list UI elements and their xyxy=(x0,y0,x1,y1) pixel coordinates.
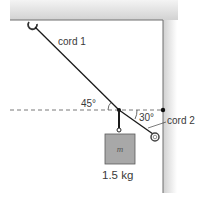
cord-tension-diagram: m cord 1 45° 30° cord 2 1.5 kg xyxy=(0,0,207,199)
mass-value-label: 1.5 kg xyxy=(102,169,133,181)
angle-45-label: 45° xyxy=(81,98,96,109)
wall xyxy=(163,20,177,193)
mass-hook-icon xyxy=(117,128,121,132)
angle-arc-45 xyxy=(108,102,111,110)
ceiling xyxy=(10,0,178,20)
wall-hook-icon xyxy=(151,133,159,141)
angle-30-label: 30° xyxy=(139,112,154,123)
wall-reference-dot xyxy=(161,108,165,112)
cord-1-label: cord 1 xyxy=(58,36,86,47)
cord-2-label: cord 2 xyxy=(167,115,195,126)
mass-symbol: m xyxy=(117,144,124,154)
angle-arc-30 xyxy=(135,110,137,119)
